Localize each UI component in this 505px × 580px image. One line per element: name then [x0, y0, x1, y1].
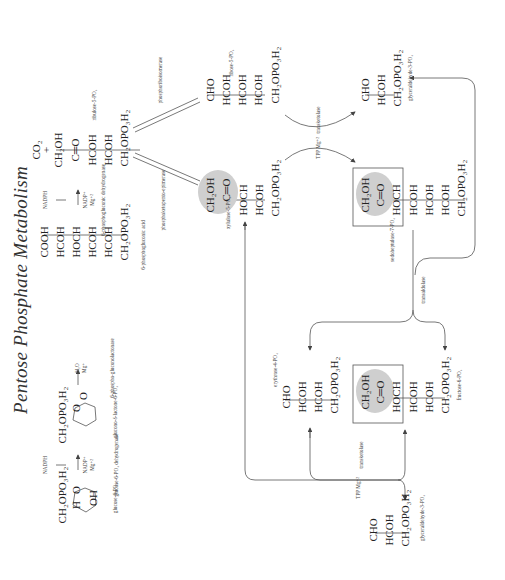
rib-cho: CHO	[205, 78, 216, 101]
gap-bot-label: glyceraldehyde-3-PO₄	[419, 495, 426, 541]
rib-hcoh-1: HCOH	[221, 74, 232, 105]
ribose-label: ribose-5-PO₄	[228, 49, 235, 76]
ery-hcoh-2: HCOH	[313, 381, 324, 412]
page-title: Pentose Phosphate Metabolism	[11, 166, 30, 414]
sed-ch2opo3h2: CH₂OPO₃H₂	[456, 160, 467, 217]
nadp-label-1: NADP⁺	[82, 457, 89, 474]
glucose6p-h: H	[71, 501, 82, 509]
fru-ch2oh: CH₂OH	[360, 374, 371, 409]
pg-hcoh-2: HCOH	[87, 226, 98, 257]
mg-label-2: Mg⁺	[81, 363, 88, 373]
nadp-label-2: NADP⁺	[82, 192, 89, 209]
ery-hcoh-1: HCOH	[297, 381, 308, 412]
ery-cho: CHO	[281, 385, 292, 408]
gap-bot-cho: CHO	[368, 518, 379, 541]
rib-hcoh-3: HCOH	[253, 74, 264, 105]
lactonase-enzyme: 6-phospho-gluconolactonase	[109, 338, 116, 398]
pg-cooh: COOH	[39, 226, 50, 257]
pg-label: 6-phosphogluconic acid	[140, 220, 147, 270]
sed-hoch: HOCH	[391, 184, 402, 215]
tpp-mg-2: TPP Mg⁺²	[355, 477, 362, 499]
fru-hcoh-1: HCOH	[408, 381, 419, 412]
fru-co: C═O	[375, 380, 386, 403]
nadph-label-1: NADPH	[42, 456, 49, 474]
fru-hoch: HOCH	[391, 381, 402, 412]
gap-top-cho: CHO	[360, 78, 371, 101]
lactone-keto-o: O	[78, 392, 89, 400]
glucose6p-oh: OH	[88, 490, 99, 506]
lactone-ch2opo3h2: CH₂OPO₃H₂	[57, 387, 68, 444]
sed-ch2oh: CH₂OH	[360, 177, 371, 212]
pg-hcoh-1: HCOH	[55, 226, 66, 257]
pentose-phosphate-diagram: Pentose Phosphate Metabolism CH₂OPO₃H₂ O…	[0, 0, 505, 580]
nadph-label-2: NADPH	[42, 191, 49, 209]
ru-hcoh-2: HCOH	[103, 134, 114, 165]
xyl-ch2oh: CH₂OH	[205, 177, 216, 212]
gap-top-hcoh: HCOH	[376, 74, 387, 105]
transaldolase-enzyme: transaldolase	[420, 276, 427, 303]
sed-hcoh-3: HCOH	[440, 184, 451, 215]
ru-ch2opo3h2: CH₂OPO₃H₂	[119, 110, 130, 167]
xyl-hoch: HOCH	[238, 184, 249, 215]
mg-label-3: Mg⁺²	[89, 194, 96, 206]
fructose-label: fructose-6-PO₄	[456, 369, 463, 400]
sedoheptulose-label: sedoheptulose-7-PO₄	[389, 218, 396, 262]
sed-co: C═O	[375, 183, 386, 206]
plus-sign: +	[41, 147, 52, 153]
gap-top-ch2opo3h2: CH₂OPO₃H₂	[392, 50, 403, 107]
gap-top-label: glyceraldehyde-3-PO₄	[407, 55, 414, 101]
tpp-mg-1: TPP Mg⁺²	[315, 137, 322, 159]
isomerase-enzyme: phosphoriboisomerase	[157, 57, 164, 104]
pgdh-enzyme: 6-phosphogluconic dehydrogenase	[100, 164, 107, 236]
transketolase-2-enzyme: transketolase	[358, 441, 365, 468]
glucose6p-ring-o: O	[71, 486, 82, 494]
xylulose-label: xylulose-5-PO₄	[225, 197, 232, 229]
rib-hcoh-2: HCOH	[237, 74, 248, 105]
g6pdh-enzyme: glucose-6-PO₄ dehydrogenase	[113, 434, 120, 497]
pg-ch2opo3h2: CH₂OPO₃H₂	[119, 204, 130, 261]
ery-ch2opo3h2: CH₂OPO₃H₂	[329, 357, 340, 414]
fru-hcoh-2: HCOH	[424, 381, 435, 412]
rib-ch2opo3h2: CH₂OPO₃H₂	[270, 47, 281, 104]
fru-ch2opo3h2: CH₂OPO₃H₂	[440, 357, 451, 414]
gap-bot-ch2opo3h2: CH₂OPO₃H₂	[400, 490, 411, 547]
glucose6p-ch2opo3h2: CH₂OPO₃H₂	[57, 467, 68, 524]
gap-bot-hcoh: HCOH	[384, 514, 395, 545]
lactone-ring-o: O	[71, 404, 82, 412]
erythrose-label: erythrose-4-PO₄	[272, 353, 279, 387]
ru-co: C═O	[70, 138, 81, 161]
ru-hcoh-1: HCOH	[87, 134, 98, 165]
sed-hcoh-1: HCOH	[408, 184, 419, 215]
mg-label-1: Mg⁺²	[89, 459, 96, 471]
xyl-hcoh: HCOH	[254, 184, 265, 215]
sed-hcoh-2: HCOH	[424, 184, 435, 215]
epimerase-enzyme: phosphoketopento-epimerase	[160, 170, 167, 231]
h2o-label: H₂O	[74, 363, 81, 372]
pg-hoch: HOCH	[71, 226, 82, 257]
transketolase-1-enzyme: transketolase	[315, 106, 322, 133]
xyl-ch2opo3h2: CH₂OPO₃H₂	[270, 160, 281, 217]
ribulose-label: ribulose-5-PO₄	[91, 89, 98, 120]
ru-ch2oh: CH₂OH	[53, 132, 64, 167]
